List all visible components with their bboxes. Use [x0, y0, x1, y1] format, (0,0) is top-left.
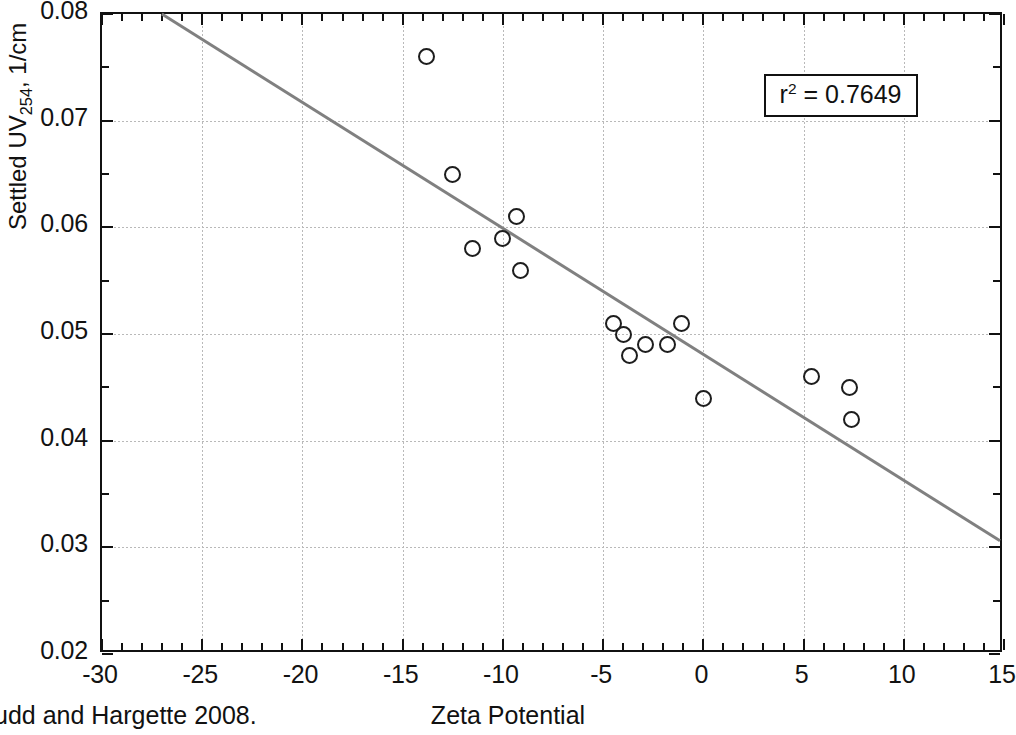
data-point	[444, 166, 461, 183]
y-axis-tick-label: 0.06	[0, 209, 88, 238]
r-squared-value: = 0.7649	[797, 80, 902, 108]
data-point	[841, 379, 858, 396]
x-axis-tick-label: -20	[250, 660, 350, 689]
r-squared-superscript: 2	[788, 80, 797, 97]
y-axis-tick-label: 0.03	[0, 529, 88, 558]
y-axis-tick	[989, 653, 1000, 655]
data-point	[695, 390, 712, 407]
r-squared-annotation: r2 = 0.7649	[764, 74, 918, 117]
y-axis-tick-label: 0.05	[0, 316, 88, 345]
x-axis-tick-label: -15	[351, 660, 451, 689]
data-point	[803, 368, 820, 385]
data-point	[508, 208, 525, 225]
r-squared-prefix: r	[780, 80, 788, 108]
data-point	[615, 326, 632, 343]
y-axis-tick-label: 0.04	[0, 423, 88, 452]
figure-caption: udd and Hargette 2008.	[0, 701, 257, 730]
data-point	[464, 240, 481, 257]
x-axis-tick-label: -25	[150, 660, 250, 689]
plot-area: r2 = 0.7649	[100, 12, 1002, 652]
figure-container: Settled UV254, 1/cm Zeta Potential udd a…	[0, 0, 1016, 735]
data-point	[673, 315, 690, 332]
data-point	[494, 230, 511, 247]
x-axis-tick-label: -5	[551, 660, 651, 689]
data-point	[659, 336, 676, 353]
x-axis-tick-label: 10	[852, 660, 952, 689]
x-axis-tick-label: 0	[651, 660, 751, 689]
x-axis-tick-label: 15	[952, 660, 1016, 689]
x-axis-tick	[1003, 14, 1005, 25]
data-point	[637, 336, 654, 353]
y-axis-title-suffix: , 1/cm	[4, 23, 31, 88]
x-axis-tick-label: 5	[752, 660, 852, 689]
data-point	[621, 347, 638, 364]
x-axis-tick-label: -10	[451, 660, 551, 689]
y-axis-tick-label: 0.07	[0, 103, 88, 132]
y-axis-tick-label: 0.08	[0, 0, 88, 25]
x-axis-tick	[1003, 639, 1005, 650]
data-point	[843, 411, 860, 428]
x-axis-tick-label: -30	[50, 660, 150, 689]
data-point	[512, 262, 529, 279]
data-point	[418, 48, 435, 65]
y-axis-tick	[102, 653, 113, 655]
